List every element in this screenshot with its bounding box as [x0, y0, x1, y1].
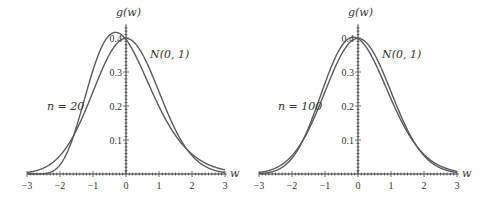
- y-tick-label: 0.2: [342, 101, 355, 112]
- y-tick-label: 0.2: [110, 101, 123, 112]
- x-axis-label: w: [230, 167, 239, 180]
- x-tick-label: 2: [422, 180, 427, 191]
- x-tick-label: 1: [389, 180, 394, 191]
- y-tick-label: 0.1: [342, 135, 355, 146]
- x-tick-label: −2: [55, 180, 66, 191]
- x-tick-label: 3: [223, 180, 228, 191]
- chart-panel-n100: −3−2−101230.10.20.30.4 g(w) w n = 100 N(…: [242, 0, 484, 203]
- y-tick-label: 0.1: [110, 135, 123, 146]
- series-label-normal: N(0, 1): [150, 48, 189, 61]
- x-tick-label: 0: [356, 180, 361, 191]
- y-axis-label: g(w): [116, 6, 141, 19]
- x-axis-label: w: [462, 167, 471, 180]
- series-label-normal: N(0, 1): [382, 48, 421, 61]
- x-tick-label: −2: [287, 180, 298, 191]
- x-tick-label: 0: [124, 180, 129, 191]
- x-tick-label: −1: [320, 180, 331, 191]
- y-tick-label: 0.3: [110, 67, 123, 78]
- x-tick-label: 3: [455, 180, 460, 191]
- chart-panel-n20: −3−2−101230.10.20.30.4 g(w) w n = 20 N(0…: [0, 0, 242, 203]
- x-tick-label: −3: [22, 180, 33, 191]
- x-tick-label: −1: [88, 180, 99, 191]
- x-tick-label: 2: [190, 180, 195, 191]
- series-label-n100: n = 100: [278, 100, 322, 113]
- series-label-n20: n = 20: [47, 100, 84, 113]
- y-tick-label: 0.3: [342, 67, 355, 78]
- x-tick-label: −3: [254, 180, 265, 191]
- x-tick-label: 1: [157, 180, 162, 191]
- chart-plot-n20: −3−2−101230.10.20.30.4: [0, 0, 242, 203]
- y-axis-label: g(w): [348, 6, 373, 19]
